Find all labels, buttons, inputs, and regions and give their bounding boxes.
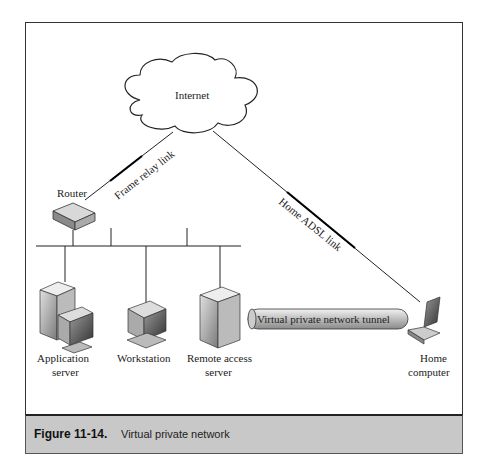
vpn-tunnel-label: Virtual private network tunnel — [257, 313, 390, 325]
application-server-icon — [40, 282, 93, 353]
frame-relay-link-label: Frame relay link — [112, 147, 177, 202]
application-server-label-2: server — [52, 366, 79, 378]
adsl-link-label: Home ADSL link — [277, 195, 345, 253]
figure-caption: Virtual private network — [121, 428, 230, 440]
remote-access-label-2: server — [205, 366, 232, 378]
figure-caption-bar: Figure 11-14. Virtual private network — [25, 414, 463, 454]
application-server-label-1: Application — [37, 352, 89, 364]
home-computer-label-1: Home — [420, 352, 447, 364]
figure-number: Figure 11-14. — [34, 427, 107, 441]
remote-access-server-icon — [200, 287, 240, 348]
workstation-label: Workstation — [117, 352, 171, 364]
home-computer-icon — [408, 297, 440, 344]
router-label: Router — [57, 187, 87, 199]
router-icon — [53, 203, 95, 230]
home-computer-label-2: computer — [408, 366, 450, 378]
network-diagram: Internet Frame relay link Home ADSL link… — [0, 0, 487, 474]
internet-label: Internet — [175, 89, 209, 101]
remote-access-label-1: Remote access — [187, 352, 252, 364]
workstation-icon — [127, 301, 166, 348]
